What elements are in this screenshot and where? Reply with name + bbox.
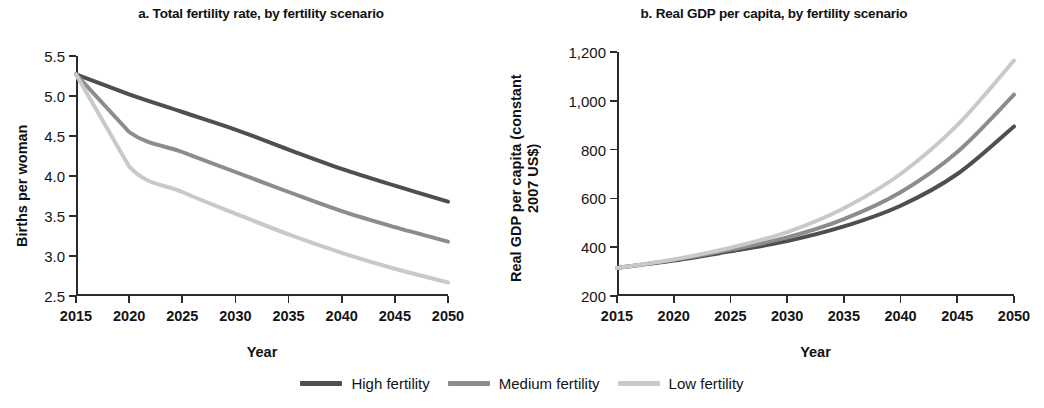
panel-a-line-low-fertility — [76, 74, 448, 282]
panel-a-line-medium-fertility — [76, 74, 448, 241]
panel-a-x-tick — [394, 296, 396, 303]
panel-a-series-lines — [76, 56, 448, 296]
panel-b-x-tick-label: 2025 — [714, 308, 746, 324]
panel-a-x-tick-label: 2045 — [379, 308, 411, 324]
panel-a-plot-area: 5.55.04.54.03.53.02.52015202020252030203… — [76, 56, 448, 296]
panel-b-y-tick-label: 800 — [581, 141, 606, 158]
panel-b-y-tick-label: 400 — [581, 239, 606, 256]
legend-item-low-fertility[interactable]: Low fertility — [618, 375, 744, 392]
panel-b-line-medium-fertility — [617, 95, 1014, 268]
panel-b-x-tick — [786, 296, 788, 303]
panel-b-y-tick-label: 600 — [581, 190, 606, 207]
panel-a-y-tick-label: 2.5 — [44, 288, 65, 305]
panel-a-y-tick-label: 5.5 — [44, 48, 65, 65]
panel-b-x-tick-label: 2045 — [941, 308, 973, 324]
panel-b-y-axis-title: Real GDP per capita (constant 2007 US$) — [508, 58, 548, 298]
panel-b-series-lines — [617, 52, 1014, 296]
panel-a-y-tick-label: 3.5 — [44, 208, 65, 225]
panel-b-y-tick — [610, 51, 617, 53]
panel-b-x-tick — [956, 296, 958, 303]
legend-swatch-icon — [300, 381, 342, 386]
panel-b-title: b. Real GDP per capita, by fertility sce… — [502, 6, 1044, 21]
panel-b-x-tick — [616, 296, 618, 303]
legend-item-medium-fertility[interactable]: Medium fertility — [448, 375, 600, 392]
panel-b-y-tick-label: 1,000 — [568, 92, 606, 109]
panel-b-x-tick-label: 2020 — [658, 308, 690, 324]
panel-a-x-tick — [235, 296, 237, 303]
panel-a-x-tick-label: 2025 — [166, 308, 198, 324]
panel-a-y-tick — [69, 135, 76, 137]
panel-a-x-axis-title: Year — [76, 344, 448, 360]
panel-b-x-tick — [843, 296, 845, 303]
panel-b-y-tick-label: 1,200 — [568, 44, 606, 61]
legend-item-label: High fertility — [351, 375, 429, 392]
panel-b-x-tick — [730, 296, 732, 303]
panel-a-x-tick — [447, 296, 449, 303]
panel-a-y-tick — [69, 55, 76, 57]
panel-b-y-tick-label: 200 — [581, 288, 606, 305]
panel-b-x-axis-title: Year — [617, 344, 1014, 360]
panel-a-x-tick-label: 2040 — [326, 308, 358, 324]
panel-b-y-tick — [610, 246, 617, 248]
panel-a-y-tick-label: 4.5 — [44, 128, 65, 145]
panel-b-x-tick — [1013, 296, 1015, 303]
panel-a-y-tick-label: 5.0 — [44, 88, 65, 105]
panel-a-y-tick — [69, 215, 76, 217]
panel-b-y-tick — [610, 100, 617, 102]
panel-b-x-tick-label: 2050 — [998, 308, 1030, 324]
panel-b-plot-area: 1,2001,000800600400200201520202025203020… — [617, 52, 1014, 296]
legend-item-label: Low fertility — [669, 375, 744, 392]
panel-a-y-axis-title: Births per woman — [14, 96, 31, 276]
panel-a-title: a. Total fertility rate, by fertility sc… — [11, 6, 511, 21]
panel-b-x-tick-label: 2040 — [884, 308, 916, 324]
panel-b-x-tick-label: 2015 — [601, 308, 633, 324]
panel-a-x-tick — [288, 296, 290, 303]
panel-a-y-tick-label: 3.0 — [44, 248, 65, 265]
panel-a-x-tick — [75, 296, 77, 303]
panel-a-x-tick — [341, 296, 343, 303]
panel-b-line-low-fertility — [617, 61, 1014, 268]
figure-legend: High fertilityMedium fertilityLow fertil… — [0, 375, 1044, 392]
legend-swatch-icon — [618, 381, 660, 386]
panel-b-x-tick — [900, 296, 902, 303]
panel-a-x-tick — [128, 296, 130, 303]
panel-a-y-tick — [69, 255, 76, 257]
legend-swatch-icon — [448, 381, 490, 386]
panel-a-y-tick — [69, 95, 76, 97]
panel-a-x-tick-label: 2015 — [60, 308, 92, 324]
panel-b-x-tick — [673, 296, 675, 303]
panel-b-line-high-fertility — [617, 126, 1014, 268]
panel-a-y-tick-label: 4.0 — [44, 168, 65, 185]
panel-a-y-tick — [69, 175, 76, 177]
panel-a-x-tick-label: 2030 — [219, 308, 251, 324]
panel-a-total-fertility-rate: a. Total fertility rate, by fertility sc… — [0, 0, 500, 370]
panel-a-x-tick-label: 2050 — [432, 308, 464, 324]
figure-two-panel-fertility: a. Total fertility rate, by fertility sc… — [0, 0, 1044, 408]
panel-b-y-tick — [610, 198, 617, 200]
panel-b-x-tick-label: 2035 — [828, 308, 860, 324]
panel-b-x-tick-label: 2030 — [771, 308, 803, 324]
panel-b-y-tick — [610, 149, 617, 151]
panel-a-x-tick-label: 2035 — [272, 308, 304, 324]
panel-a-x-tick — [181, 296, 183, 303]
legend-item-high-fertility[interactable]: High fertility — [300, 375, 429, 392]
panel-a-x-tick-label: 2020 — [113, 308, 145, 324]
legend-item-label: Medium fertility — [499, 375, 600, 392]
